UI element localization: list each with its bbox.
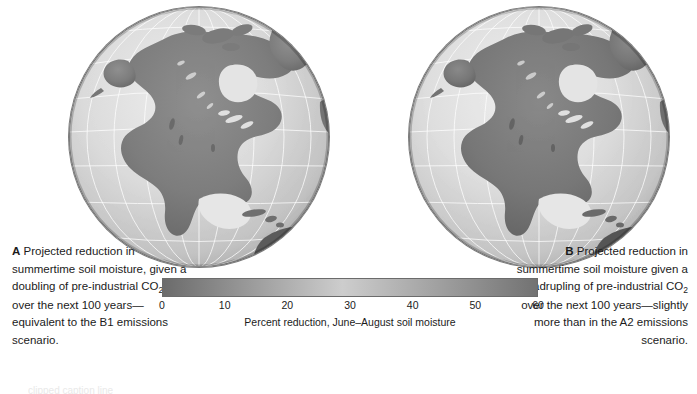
clipped-bottom-text: clipped caption line — [28, 385, 113, 394]
panel-caption-a-tail: over the next 100 years—equivalent to th… — [12, 299, 168, 346]
panel-caption-b: BProjected reduction in summertime soil … — [512, 243, 688, 349]
globe-map-panel-b — [408, 6, 670, 268]
colorbar-tick-60: 60 — [532, 299, 544, 311]
colorbar-tick-labels: 0102030405060 — [162, 299, 538, 314]
colorbar-tick-0: 0 — [159, 299, 165, 311]
panel-caption-b-tail: over the next 100 years—slightly more th… — [521, 299, 688, 346]
colorbar-caption: Percent reduction, June–August soil mois… — [162, 316, 538, 328]
colorbar-tick-50: 50 — [469, 299, 481, 311]
globe-map-panel-a — [68, 6, 330, 268]
panel-caption-b-subscript: 2 — [683, 285, 688, 295]
colorbar-gradient — [162, 278, 538, 297]
colorbar-tick-40: 40 — [407, 299, 419, 311]
colorbar-tick-20: 20 — [281, 299, 293, 311]
panel-label-b: B — [565, 245, 574, 257]
colorbar-tick-30: 30 — [344, 299, 356, 311]
panel-label-a: A — [12, 245, 21, 257]
colorbar-legend: 0102030405060 Percent reduction, June–Au… — [162, 278, 538, 328]
panel-caption-b-lead: Projected reduction in summertime soil m… — [517, 245, 688, 292]
figure-container: AProjected reduction in summertime soil … — [0, 0, 697, 394]
colorbar-tick-10: 10 — [219, 299, 231, 311]
